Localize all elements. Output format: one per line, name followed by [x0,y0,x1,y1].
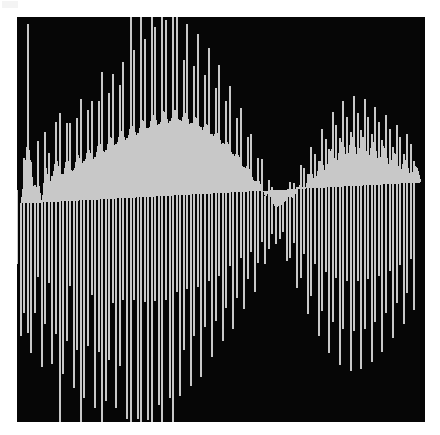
waveform-stem [396,125,398,304]
waveform-stem [367,117,369,280]
waveform-stem [254,181,256,292]
waveform-stem [257,158,259,263]
waveform-stem [286,198,288,261]
waveform-stem [325,139,327,272]
waveform-stem [353,96,355,331]
waveform-stem [300,165,302,278]
waveform-stem [69,123,71,285]
waveform-stem [389,129,391,271]
waveform-stem [310,147,312,296]
waveform-stem [20,203,22,337]
waveform-stem [314,154,316,264]
waveform-stem [357,113,359,281]
waveform-stem-outlier [59,113,61,422]
waveform-stem-outlier [151,17,153,422]
waveform-stem [204,75,206,327]
waveform-stem [236,118,238,298]
waveform-stem-outlier [172,17,174,422]
waveform-stem [62,174,64,374]
waveform-stem [225,101,227,308]
waveform-stem [41,202,43,368]
waveform-stem [296,187,298,288]
waveform-stem [48,153,50,283]
waveform-stem [275,208,277,244]
waveform-stem [303,168,305,254]
waveform-stem [34,185,36,313]
plot-area [17,17,425,422]
waveform-stem [98,101,100,351]
waveform-stem [410,144,412,259]
waveform-stem [183,60,185,350]
waveform-stem [332,112,334,322]
waveform-stem-outlier [161,17,163,422]
waveform-stem [335,125,337,278]
waveform-plot-svg [17,17,425,422]
waveform-stem [247,137,249,279]
waveform-stem [73,170,75,388]
waveform-stem [413,161,415,311]
waveform-stem [193,66,195,337]
waveform-figure [0,0,440,435]
waveform-stem [378,122,380,276]
corner-artifact [2,1,18,8]
waveform-stem [37,141,39,278]
waveform-stem [119,85,121,366]
waveform-stem [321,129,323,311]
waveform-stem [346,117,348,281]
waveform-stem [108,93,110,360]
waveform-stem-outlier [140,17,142,422]
waveform-stem [250,134,252,252]
waveform-stem [385,115,387,313]
waveform-stem [374,107,376,322]
waveform-stem [307,174,309,314]
waveform-stem-outlier [80,99,82,422]
waveform-stem-outlier [101,72,103,422]
waveform-stem [364,99,366,329]
waveform-stem [342,101,344,328]
waveform-stem [268,180,270,249]
waveform-stem-outlier [130,17,132,422]
waveform-stem [215,88,217,321]
waveform-stem [17,190,18,264]
waveform-stem [264,196,266,265]
waveform-stem-outlier [27,24,29,333]
waveform-stem [51,176,53,364]
waveform-stem [406,134,408,293]
waveform-stem [399,137,401,265]
waveform-stem [87,110,89,347]
waveform-stem [261,159,263,241]
